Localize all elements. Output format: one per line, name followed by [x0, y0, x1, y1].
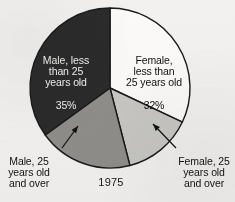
slice-label-male-less-than-25: Male, less than 25 years old 35% [32, 44, 100, 111]
slice-label-female-25-and-over-text: Female, 25 years old and over [178, 155, 230, 189]
slice-value-male-less-than-25: 35% [56, 99, 77, 111]
slice-label-male-25-and-over-text: Male, 25 years old and over [8, 155, 50, 189]
slice-label-female-25-and-over: Female, 25 years old and over 14% [173, 145, 235, 202]
slice-label-female-less-than-25: Female, less than 25 years old 32% [118, 44, 190, 111]
slice-label-male-25-and-over: Male, 25 years old and over 19% [0, 145, 58, 202]
pie-chart-figure: Male, less than 25 years old 35% Female,… [0, 0, 235, 202]
slice-value-female-less-than-25: 32% [144, 99, 165, 111]
slice-value-male-25-and-over: 19% [19, 200, 40, 202]
slice-label-male-less-than-25-text: Male, less than 25 years old [43, 54, 89, 88]
slice-label-female-less-than-25-text: Female, less than 25 years old [126, 54, 182, 88]
slice-value-female-25-and-over: 14% [194, 200, 215, 202]
chart-year-caption: 1975 [86, 176, 136, 188]
